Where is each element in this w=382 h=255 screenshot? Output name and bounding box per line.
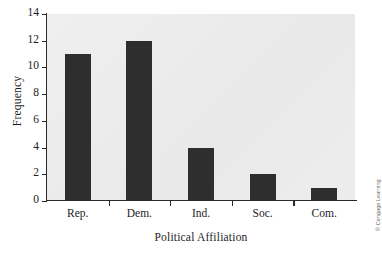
- x-axis-tick-label: Rep.: [47, 207, 109, 220]
- x-axis-tick-label: Soc.: [232, 207, 294, 220]
- y-axis-tick-label: 0: [6, 194, 39, 206]
- x-axis-tick-label: Ind.: [170, 207, 232, 220]
- y-axis-tick-label: 12: [6, 34, 39, 46]
- y-axis-tick-mark: [42, 14, 47, 15]
- x-axis-title: Political Affiliation: [47, 231, 355, 243]
- y-axis-tick-label: 10: [6, 60, 39, 72]
- y-axis-tick-mark: [42, 174, 47, 175]
- x-axis-tick-label: Dem.: [109, 207, 171, 220]
- y-axis-tick-label: 2: [6, 167, 39, 179]
- y-axis-tick-label: 8: [6, 87, 39, 99]
- y-axis-tick-labels: 02468101214: [6, 0, 39, 255]
- bar-rep: [65, 54, 91, 201]
- y-axis-tick-label: 4: [6, 141, 39, 153]
- x-axis-tick-mark: [232, 201, 233, 206]
- x-axis-tick-mark: [293, 201, 294, 206]
- x-axis-tick-mark: [170, 201, 171, 206]
- copyright-credit: © Cengage Learning: [373, 151, 382, 231]
- plot-area: [47, 14, 355, 201]
- y-axis-tick-mark: [42, 67, 47, 68]
- y-axis-tick-label: 14: [6, 7, 39, 19]
- y-axis-tick-mark: [42, 121, 47, 122]
- y-axis-tick-mark: [42, 41, 47, 42]
- bar-com: [311, 188, 337, 201]
- x-axis-line: [46, 200, 357, 201]
- y-axis-tick-mark: [42, 148, 47, 149]
- bar-dem: [126, 41, 152, 201]
- x-axis-tick-label: Com.: [293, 207, 355, 220]
- bar-ind: [188, 148, 214, 201]
- bar-soc: [250, 174, 276, 201]
- y-axis-tick-label: 6: [6, 114, 39, 126]
- y-axis-tick-mark: [42, 201, 47, 202]
- y-axis-tick-mark: [42, 94, 47, 95]
- x-axis-tick-mark: [109, 201, 110, 206]
- bar-chart-figure: Frequency 02468101214 Political Affiliat…: [0, 0, 382, 255]
